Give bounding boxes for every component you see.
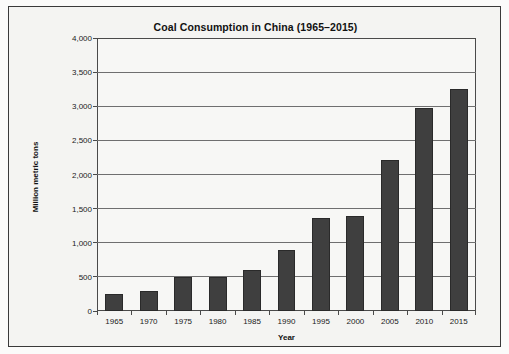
x-tick-mark [235,311,236,315]
y-tick-label: 3,000 [72,102,92,111]
x-tick-label-1970: 1970 [140,317,158,326]
y-tick-label: 2,500 [72,136,92,145]
x-tick-mark [131,311,132,315]
x-axis-title: Year [97,333,476,342]
x-tick-mark [373,311,374,315]
bar-series [97,38,476,311]
x-tick-mark [304,311,305,315]
x-tick-mark [200,311,201,315]
chart-frame: Coal Consumption in China (1965–2015) Mi… [8,6,501,347]
bar-1970 [140,291,158,311]
bar-2005 [381,160,399,311]
x-tick-label-1980: 1980 [209,317,227,326]
bar-2000 [346,216,364,311]
x-tick-mark [442,311,443,315]
bar-1985 [243,270,261,311]
bar-1980 [209,277,227,311]
x-tick-label-2005: 2005 [381,317,399,326]
chart-title: Coal Consumption in China (1965–2015) [9,21,502,33]
x-tick-mark [407,311,408,315]
x-tick-mark [97,311,98,315]
bar-2010 [415,108,433,311]
x-tick-label-2000: 2000 [347,317,365,326]
bar-1965 [105,294,123,311]
x-tick-label-2010: 2010 [415,317,433,326]
x-tick-mark [269,311,270,315]
x-tick-mark [475,311,476,315]
bar-1975 [174,277,192,311]
plot-wrapper: 05001,0001,5002,0002,5003,0003,5004,000 … [97,38,476,311]
y-tick-label: 0 [88,307,92,316]
x-tick-label-1995: 1995 [312,317,330,326]
x-tick-label-1985: 1985 [243,317,261,326]
y-tick-label: 3,500 [72,68,92,77]
y-tick-label: 4,000 [72,34,92,43]
x-tick-label-2015: 2015 [450,317,468,326]
x-tick-label-1990: 1990 [278,317,296,326]
x-tick-label-1965: 1965 [105,317,123,326]
x-tick-mark [338,311,339,315]
x-axis-ticks [97,311,476,316]
bar-1990 [278,250,296,311]
y-tick-label: 500 [79,272,92,281]
bar-1995 [312,218,330,311]
y-tick-label: 1,000 [72,238,92,247]
y-axis-title: Million metric tons [31,141,40,212]
y-tick-label: 2,000 [72,170,92,179]
x-tick-label-1975: 1975 [174,317,192,326]
y-tick-label: 1,500 [72,204,92,213]
x-tick-mark [166,311,167,315]
chart-page: Coal Consumption in China (1965–2015) Mi… [0,0,509,354]
bar-2015 [450,89,468,311]
